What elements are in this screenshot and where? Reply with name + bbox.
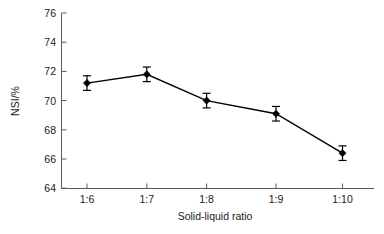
y-axis-ticks [62, 13, 67, 188]
data-point-marker [203, 97, 210, 104]
line-chart: 76 74 72 70 68 66 64 NSI/% 1:6 1:7 1:8 1… [0, 0, 384, 234]
y-tick-label: 66 [44, 153, 56, 165]
x-tick-label: 1:7 [139, 193, 154, 205]
chart-figure: 76 74 72 70 68 66 64 NSI/% 1:6 1:7 1:8 1… [0, 0, 384, 234]
y-tick-label: 70 [44, 95, 56, 107]
x-tick-label: 1:6 [80, 193, 95, 205]
x-axis-ticks [87, 184, 343, 189]
x-tick-label: 1:8 [199, 193, 214, 205]
data-point-marker [339, 150, 346, 157]
y-tick-label: 68 [44, 124, 56, 136]
data-point [143, 67, 151, 82]
data-point-marker [143, 71, 150, 78]
data-point-marker [83, 79, 90, 86]
x-tick-label: 1:10 [332, 193, 353, 205]
data-point-marker [272, 110, 279, 117]
x-axis-title: Solid-liquid ratio [178, 210, 253, 222]
data-series-nsi [83, 67, 347, 160]
y-tick-label: 74 [44, 36, 56, 48]
data-point [272, 106, 280, 121]
y-axis-tick-labels: 76 74 72 70 68 66 64 [44, 7, 56, 194]
data-point [203, 93, 211, 108]
series-line [87, 74, 343, 153]
data-point [83, 76, 91, 91]
x-axis-tick-labels: 1:6 1:7 1:8 1:9 1:10 [80, 193, 353, 205]
y-tick-label: 72 [44, 65, 56, 77]
x-tick-label: 1:9 [269, 193, 284, 205]
data-point [339, 146, 347, 161]
y-tick-label: 64 [44, 182, 56, 194]
y-axis-title: NSI/% [9, 86, 21, 116]
y-tick-label: 76 [44, 7, 56, 19]
